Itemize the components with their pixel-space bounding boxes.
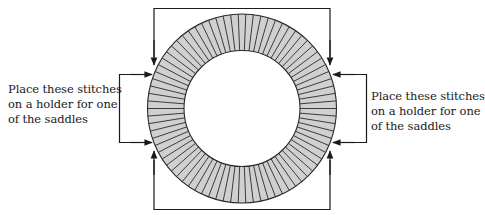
stitch-ring (148, 14, 337, 203)
right-saddle-label: Place these stitches on a holder for one… (371, 89, 485, 134)
right-label-line-1: Place these stitches (371, 89, 485, 104)
right-bracket (333, 75, 367, 143)
left-label-line-1: Place these stitches (8, 82, 122, 97)
left-saddle-label: Place these stitches on a holder for one… (8, 82, 122, 127)
left-label-line-3: of the saddles (8, 112, 122, 127)
right-label-line-2: on a holder for one (371, 104, 485, 119)
left-label-line-2: on a holder for one (8, 97, 122, 112)
right-bracket-line (345, 75, 367, 143)
left-bracket-line (120, 75, 141, 143)
right-label-line-3: of the saddles (371, 119, 485, 134)
